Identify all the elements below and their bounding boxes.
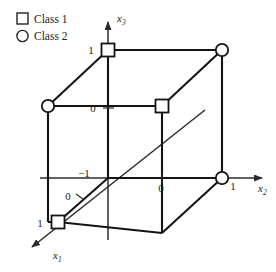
- vertex-marker-circle-front-top-left: [42, 100, 54, 112]
- vertex-marker-circle-back-top-right: [216, 44, 228, 56]
- x2-tick-label-0: 0: [158, 182, 164, 194]
- x2-tick-label-1: 1: [230, 180, 236, 192]
- x2-axis-label: x2: [257, 182, 267, 197]
- cube-edge-top-right-diag: [162, 50, 222, 106]
- vertex-marker-square-front-bottom: [52, 216, 65, 229]
- legend-square-marker-icon: [17, 13, 28, 24]
- x1-axis-label: x1: [52, 249, 62, 264]
- legend-circle-marker-icon: [17, 30, 28, 41]
- cube-edge-bottom-right-diag: [162, 178, 222, 233]
- x3-tick-label-0: 0: [90, 102, 96, 114]
- legend-label-class-2: Class 2: [34, 30, 68, 42]
- vertex-marker-square-axis-top: [102, 44, 115, 57]
- legend: Class 1 Class 2: [17, 13, 68, 42]
- x1-tick-zero: [76, 194, 83, 199]
- legend-label-class-1: Class 1: [34, 13, 68, 25]
- x3-tick-label-minus1: −1: [78, 167, 90, 179]
- x1-tick-label-1: 1: [37, 217, 43, 229]
- tick-labels: 1 0 −1 0 1 0 1: [37, 44, 236, 229]
- vertex-marker-circle-axis-right: [216, 172, 228, 184]
- x1-tick-label-0: 0: [65, 190, 71, 202]
- vertex-marker-square-center-mid: [156, 100, 169, 113]
- x3-tick-label-1: 1: [88, 44, 94, 56]
- cube-diagram-svg: 1 0 −1 0 1 0 1 x3 x2 x1 Class 1 Class: [0, 0, 276, 272]
- cube-edge-top-left-diag: [48, 50, 108, 106]
- x3-axis-label: x3: [116, 12, 126, 27]
- cube-edges: [48, 50, 222, 233]
- cube-edge-bottom-front: [58, 222, 162, 233]
- figure-root: 1 0 −1 0 1 0 1 x3 x2 x1 Class 1 Class: [0, 0, 276, 272]
